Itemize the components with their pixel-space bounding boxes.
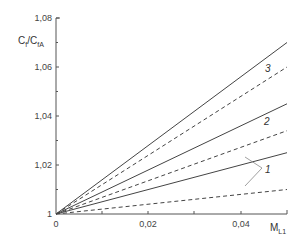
y-tick-label: 1 (47, 209, 52, 219)
curve-2-dashed (56, 131, 287, 214)
curve-label-1: 1 (265, 164, 271, 175)
x-tick-label: 0,02 (139, 219, 157, 229)
y-tick-label: 1,04 (34, 111, 52, 121)
curve-3-solid (56, 43, 287, 215)
curve-3-dashed (56, 67, 287, 214)
curve-label-2: 2 (263, 116, 270, 127)
x-tick-label: 0,04 (232, 219, 250, 229)
y-axis-label: Cf/CfA (18, 35, 44, 48)
curve-label-3: 3 (265, 63, 271, 74)
curve-2-solid (56, 104, 287, 214)
x-axis-label: ML1 (270, 222, 286, 235)
x-tick-label: 0 (53, 219, 58, 229)
x-ticks (102, 210, 287, 214)
chart: 1 1,02 1,04 1,06 1,08 0 0,02 0,04 Cf/CfA… (0, 0, 303, 238)
y-tick-label: 1,08 (34, 13, 52, 23)
y-tick-label: 1,02 (34, 160, 52, 170)
y-tick-label: 1,06 (34, 62, 52, 72)
series-lines (56, 43, 287, 215)
